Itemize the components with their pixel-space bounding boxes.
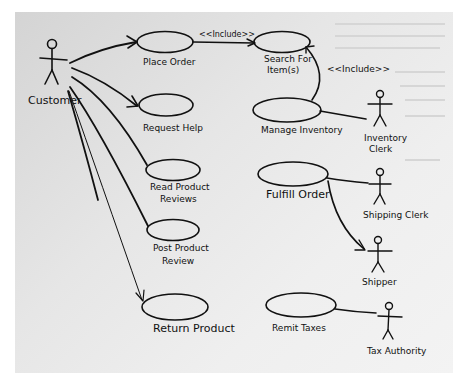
stick-figure-icon bbox=[368, 237, 392, 273]
use-case-remit-taxes[interactable]: Remit Taxes bbox=[266, 293, 336, 333]
use-case-place-order[interactable]: Place Order bbox=[137, 32, 196, 68]
include-place-order-search: <<Include>> bbox=[193, 30, 255, 46]
use-case-diagram: Customer Inventory Clerk Shipping Clerk bbox=[0, 0, 453, 383]
use-case-search-items[interactable]: Search For Item(s) bbox=[254, 32, 312, 76]
association-customer-request-help bbox=[72, 68, 138, 107]
use-case-label: Manage Inventory bbox=[261, 125, 343, 135]
use-case-label-line2: Item(s) bbox=[267, 65, 299, 75]
actor-tax-authority[interactable]: Tax Authority bbox=[366, 303, 427, 357]
use-case-post-product-review[interactable]: Post Product Review bbox=[147, 220, 209, 267]
use-case-label: Place Order bbox=[143, 57, 196, 67]
actor-shipping-clerk[interactable]: Shipping Clerk bbox=[363, 169, 429, 221]
stick-figure-icon bbox=[378, 303, 402, 340]
stick-figure-icon bbox=[369, 169, 391, 205]
include-label: <<Include>> bbox=[199, 30, 255, 39]
use-case-label: Remit Taxes bbox=[272, 323, 326, 333]
actor-label: Shipper bbox=[362, 277, 397, 287]
use-case-label-line1: Search For bbox=[264, 54, 312, 64]
include-label: <<Include>> bbox=[327, 64, 390, 74]
use-case-label-line2: Review bbox=[162, 256, 194, 266]
use-case-fulfill-order[interactable]: Fulfill Order bbox=[258, 162, 330, 201]
association-fulfill-shipper bbox=[328, 181, 365, 250]
actor-label-line2: Clerk bbox=[369, 144, 393, 154]
use-case-label: Return Product bbox=[153, 322, 235, 335]
actor-label: Tax Authority bbox=[366, 346, 427, 356]
actor-label-line1: Inventory bbox=[364, 133, 408, 143]
use-case-label-line2: Reviews bbox=[160, 194, 197, 204]
actor-shipper[interactable]: Shipper bbox=[362, 237, 397, 288]
use-case-return-product[interactable]: Return Product bbox=[142, 294, 235, 335]
use-case-label-line1: Read Product bbox=[150, 182, 210, 192]
actor-customer[interactable]: Customer bbox=[28, 40, 82, 108]
use-case-read-product-reviews[interactable]: Read Product Reviews bbox=[146, 160, 210, 205]
stick-figure-icon bbox=[40, 40, 67, 85]
use-case-manage-inventory[interactable]: Manage Inventory bbox=[253, 98, 343, 135]
association-remit-taxes-authority bbox=[335, 309, 376, 313]
association-inventory-clerk-manage bbox=[320, 111, 366, 119]
association-fulfill-shipping-clerk bbox=[327, 178, 368, 183]
use-case-label: Fulfill Order bbox=[266, 188, 330, 201]
actor-inventory-clerk[interactable]: Inventory Clerk bbox=[364, 91, 408, 155]
use-case-label-line1: Post Product bbox=[153, 243, 209, 253]
use-case-request-help[interactable]: Request Help bbox=[139, 94, 203, 133]
stick-figure-icon bbox=[368, 91, 392, 127]
association-customer-place-order bbox=[70, 36, 137, 63]
actor-label: Shipping Clerk bbox=[363, 210, 429, 220]
use-case-label: Request Help bbox=[143, 123, 203, 133]
